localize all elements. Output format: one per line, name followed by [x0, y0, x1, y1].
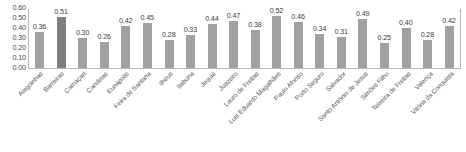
bar-value-label: 0.34 [313, 25, 326, 32]
bar-slot: 0.38 [244, 9, 266, 68]
y-axis-tick-label: 0.50 [12, 14, 26, 21]
bar-chart: 0.600.500.400.300.200.100.00 0.360.510.3… [0, 0, 466, 152]
bar [402, 28, 411, 68]
bar-slot: 0.36 [29, 9, 51, 68]
bar-value-label: 0.47 [227, 12, 240, 19]
bar [186, 35, 195, 68]
bar-value-label: 0.38 [248, 21, 261, 28]
bar-slot: 0.34 [309, 9, 331, 68]
bar-slot: 0.30 [72, 9, 94, 68]
bar [208, 24, 217, 68]
bar-slot: 0.28 [158, 9, 180, 68]
bar-value-label: 0.28 [162, 31, 175, 38]
x-axis-tick-label: Barreiras [42, 70, 65, 93]
y-axis-tick-label: 0.20 [12, 44, 26, 51]
y-axis-tick-label: 0.60 [12, 4, 26, 11]
bar-value-label: 0.40 [399, 19, 412, 26]
bar-slot: 0.33 [180, 9, 202, 68]
bar-slot: 0.51 [51, 9, 73, 68]
bar [229, 21, 238, 68]
bar-slot: 0.49 [352, 9, 374, 68]
bar [251, 30, 260, 68]
bar [121, 26, 130, 68]
bar [380, 43, 389, 68]
bar-value-label: 0.30 [76, 29, 89, 36]
bar-value-label: 0.28 [421, 31, 434, 38]
y-axis-tick-label: 0.30 [12, 34, 26, 41]
bar-value-label: 0.51 [54, 8, 67, 15]
bar-value-label: 0.44 [205, 15, 218, 22]
bar [143, 23, 152, 68]
bar-slot: 0.25 [374, 9, 396, 68]
x-axis-tick-label: Ilhéus [157, 70, 174, 87]
bar-value-label: 0.42 [442, 17, 455, 24]
bar [35, 32, 44, 68]
bar [57, 17, 66, 68]
bar-slot: 0.28 [417, 9, 439, 68]
bar-slot: 0.44 [201, 9, 223, 68]
bar [315, 34, 324, 68]
bar-slot: 0.52 [266, 9, 288, 68]
bar-value-label: 0.26 [97, 33, 110, 40]
bar-value-label: 0.46 [291, 13, 304, 20]
bar-value-label: 0.25 [378, 34, 391, 41]
y-axis-tick-label: 0.00 [12, 64, 26, 71]
y-axis-tick-label: 0.40 [12, 24, 26, 31]
bar [165, 40, 174, 68]
y-axis: 0.600.500.400.300.200.100.00 [2, 8, 26, 68]
x-axis-tick-label: Vitória da Conquista [410, 70, 455, 115]
bar-value-label: 0.33 [184, 26, 197, 33]
plot-area: 0.360.510.300.260.420.450.280.330.440.47… [28, 9, 461, 69]
bar [100, 42, 109, 68]
bar [78, 38, 87, 68]
bars-container: 0.360.510.300.260.420.450.280.330.440.47… [29, 9, 460, 68]
x-axis-tick-label: Camaçari [63, 70, 87, 94]
bar [294, 22, 303, 68]
bar-slot: 0.26 [94, 9, 116, 68]
bar-slot: 0.31 [331, 9, 353, 68]
x-axis: AlagoinhasBarreirasCamaçariCandeiasEunáp… [28, 70, 461, 152]
bar-value-label: 0.52 [270, 7, 283, 14]
bar [445, 26, 454, 68]
bar [272, 16, 281, 68]
x-axis-tick-label: Teixeira de Freitas [370, 70, 412, 112]
bar-value-label: 0.49 [356, 10, 369, 17]
bar-slot: 0.42 [115, 9, 137, 68]
x-axis-tick-label: Itabuna [175, 70, 195, 90]
bar-value-label: 0.31 [334, 28, 347, 35]
bar-slot: 0.42 [438, 9, 460, 68]
x-axis-tick-label: Alagoinhas [16, 70, 43, 97]
bar [358, 19, 367, 68]
bar-slot: 0.46 [288, 9, 310, 68]
bar-slot: 0.47 [223, 9, 245, 68]
bar [423, 40, 432, 68]
x-axis-tick-label: Jequié [199, 70, 217, 88]
y-axis-tick-label: 0.10 [12, 54, 26, 61]
bar-value-label: 0.42 [119, 17, 132, 24]
bar-slot: 0.45 [137, 9, 159, 68]
bar-value-label: 0.45 [141, 14, 154, 21]
bar [337, 37, 346, 68]
bar-slot: 0.40 [395, 9, 417, 68]
bar-value-label: 0.36 [33, 23, 46, 30]
